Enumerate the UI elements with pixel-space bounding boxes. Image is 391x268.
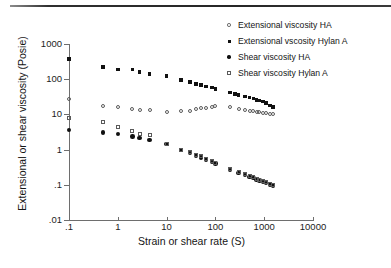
data-point [188,150,192,154]
chart-legend: Extensional viscosity HAExtensional vsco… [222,17,390,81]
data-point [204,157,208,161]
data-point [237,170,241,174]
open-square-icon [222,71,236,74]
legend-item-label: Shear viscosity HA [236,53,310,62]
plot-area: 1000100101.1.01 .1110100100010000 Extens… [0,0,391,268]
legend-item: Shear viscosity HA [222,49,390,65]
data-point [116,125,120,129]
legend-item: Extensional viscosity HA [222,17,390,33]
legend-item-label: Shear viscosity Hylan A [236,69,328,78]
data-point [165,142,169,146]
data-point [138,132,142,136]
data-point [199,154,203,158]
legend-item: Extensional vscosity Hylan A [222,33,390,49]
data-point [213,161,217,165]
data-point [130,129,134,133]
legend-item-label: Extensional vscosity Hylan A [236,37,347,46]
figure-canvas: 1000100101.1.01 .1110100100010000 Extens… [0,0,391,268]
data-point [101,120,105,124]
filled-square-icon [222,40,236,43]
data-point [228,167,232,171]
open-circle-icon [222,23,236,27]
y-axis-title: Extensional or shear viscosity (Posie) [17,29,28,219]
legend-item: Shear viscosity Hylan A [222,65,390,81]
data-point [179,148,183,152]
filled-circle-icon [222,55,236,58]
legend-item-label: Extensional viscosity HA [236,21,332,30]
data-point [148,133,152,137]
data-point [243,172,247,176]
x-axis-title: Strain or shear rate (S) [69,236,314,247]
data-point [271,183,275,187]
data-point [67,116,71,120]
data-point [194,153,198,157]
